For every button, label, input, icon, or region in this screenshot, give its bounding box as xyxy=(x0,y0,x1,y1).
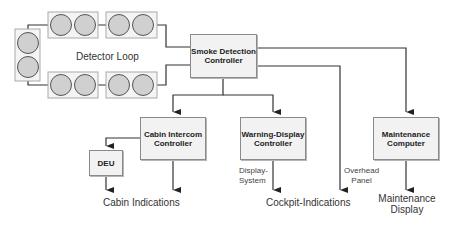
smoke-detector-icon xyxy=(51,75,72,96)
smoke-detector-icon xyxy=(18,57,39,78)
maintenance-display-label: Maintenance Display xyxy=(376,193,438,215)
deu-box: DEU xyxy=(89,150,123,176)
smoke-detector-icon xyxy=(109,15,130,36)
display-system-label: Display- System xyxy=(239,166,268,186)
smoke-detector-icon xyxy=(133,15,154,36)
smoke-detection-controller-box: Smoke Detection Controller xyxy=(190,34,257,78)
smoke-detector-icon xyxy=(75,75,96,96)
cabin-intercom-controller-box: Cabin Intercom Controller xyxy=(140,117,206,160)
smoke-detector-icon xyxy=(75,15,96,36)
cabin-indications-label: Cabin Indications xyxy=(103,197,180,208)
maintenance-computer-box: Maintenance Computer xyxy=(373,117,439,160)
detector-loop-label: Detector Loop xyxy=(76,51,139,62)
overhead-panel-label: Overhead Panel xyxy=(344,166,379,186)
smoke-detector-icon xyxy=(109,75,130,96)
cockpit-indications-label: Cockpit-Indications xyxy=(266,197,350,208)
smoke-detector-icon xyxy=(133,75,154,96)
warning-display-controller-box: Warning-Display Controller xyxy=(240,117,306,160)
smoke-detector-icon xyxy=(18,33,39,54)
smoke-detector-icon xyxy=(51,15,72,36)
